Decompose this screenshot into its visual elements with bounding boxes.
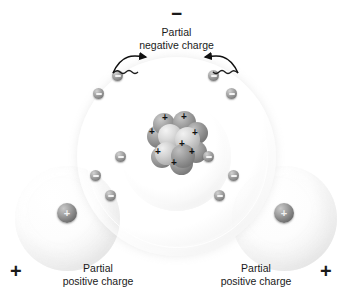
partial-positive-charge-label-left: Partial positive charge: [38, 262, 158, 288]
partial-positive-sign-left: +: [10, 261, 22, 281]
electron-density-arrows: [0, 0, 353, 301]
partial-positive-sign-right: +: [320, 261, 332, 281]
arrow-left-wave: [113, 71, 138, 74]
partial-positive-charge-label-right: Partial positive charge: [196, 262, 316, 288]
molecule-stage: + + + + + + + +: [0, 0, 353, 301]
water-molecule-diagram: − Partial negative charge + +: [0, 0, 353, 301]
arrow-right-wave: [213, 71, 238, 74]
